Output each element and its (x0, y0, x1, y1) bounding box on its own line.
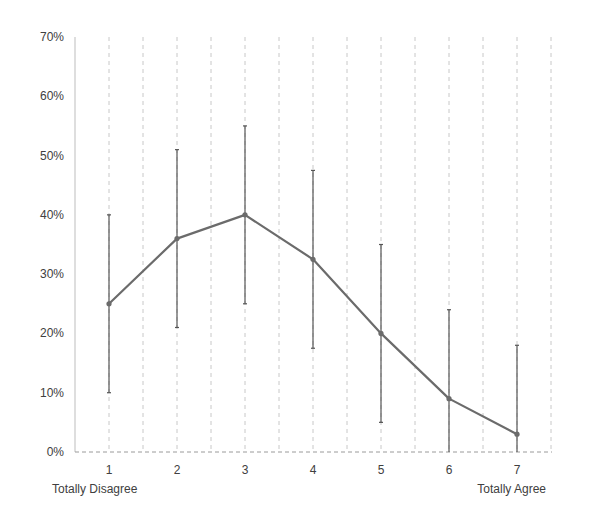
x-tick-label: 3 (242, 463, 249, 477)
data-point (378, 331, 383, 336)
x-tick-label: 1 (106, 463, 113, 477)
y-tick-label: 20% (40, 326, 64, 340)
x-tick-label: 7 (514, 463, 521, 477)
y-tick-label: 40% (40, 208, 64, 222)
x-tick-label: 6 (446, 463, 453, 477)
x-note-totally-disagree: Totally Disagree (52, 482, 138, 496)
y-tick-label: 0% (47, 445, 65, 459)
data-point (174, 236, 179, 241)
x-note-totally-agree: Totally Agree (477, 482, 546, 496)
data-point (514, 432, 519, 437)
data-point (310, 257, 315, 262)
grid-lines (109, 37, 551, 452)
data-point (242, 212, 247, 217)
y-tick-label: 30% (40, 267, 64, 281)
y-tick-label: 50% (40, 149, 64, 163)
x-tick-label: 4 (310, 463, 317, 477)
x-tick-labels: 1234567 (106, 463, 521, 477)
data-point (106, 301, 111, 306)
y-tick-label: 10% (40, 386, 64, 400)
y-tick-label: 70% (40, 30, 64, 44)
y-tick-label: 60% (40, 89, 64, 103)
x-tick-label: 2 (174, 463, 181, 477)
x-tick-label: 5 (378, 463, 385, 477)
y-tick-labels: 0%10%20%30%40%50%60%70% (40, 30, 64, 459)
line-chart: 0%10%20%30%40%50%60%70% 1234567 Totally … (0, 0, 599, 519)
data-point (446, 396, 451, 401)
